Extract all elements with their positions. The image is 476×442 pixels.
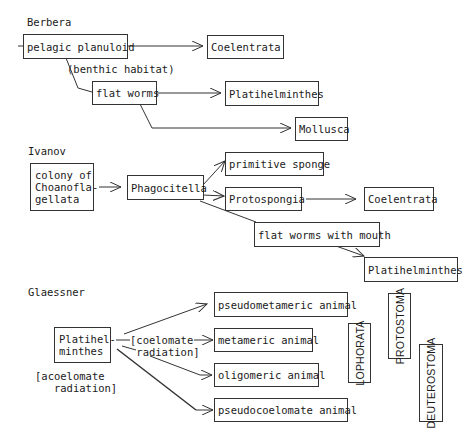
section-title-glaessner: Glaessner bbox=[28, 286, 85, 298]
group-protostoma: PROTOSTOMA bbox=[388, 293, 411, 359]
annotation-benthic-habitat: (benthic habitat) bbox=[67, 63, 174, 75]
node-coelentrata-berbera: Coelentrata bbox=[207, 35, 284, 59]
annotation-acoelomate-radiation: [acoelomate radiation] bbox=[35, 370, 117, 394]
node-oligomeric-animal: oligomeric animal bbox=[214, 363, 319, 387]
node-flat-worms-with-mouth: flat worms with mouth bbox=[254, 222, 380, 247]
group-lophorata-label: LOPHORATA bbox=[354, 320, 366, 385]
group-protostoma-label: PROTOSTOMA bbox=[394, 288, 406, 364]
node-pelagic-planuloid: pelagic planuloid bbox=[23, 34, 128, 59]
node-primitive-sponge: primitive sponge bbox=[225, 152, 324, 176]
annotation-coelomate-radiation: [coelomate radiation] bbox=[130, 334, 200, 358]
node-mollusca: Mollusca bbox=[295, 117, 348, 141]
node-coelentrata-ivanov: Coelentrata bbox=[364, 187, 434, 211]
node-pseudometameric-animal: pseudometameric animal bbox=[214, 292, 348, 317]
node-protospongia: Protospongia bbox=[225, 187, 302, 211]
node-phagocitella: Phagocitella bbox=[127, 175, 204, 200]
node-metameric-animal: metameric animal bbox=[214, 328, 313, 352]
node-platihelminthes-berbera: Platihelminthes bbox=[225, 81, 319, 106]
group-deuterostoma-label: DEUTEROSTOMA bbox=[425, 338, 437, 429]
section-title-berbera: Berbera bbox=[27, 16, 71, 28]
section-title-ivanov: Ivanov bbox=[28, 145, 66, 157]
group-lophorata: LOPHORATA bbox=[348, 323, 371, 383]
node-platihelminthes-ivanov: Platihelminthes bbox=[364, 257, 458, 282]
node-colony-choanoflagellata: colony of Choanofla- gellata bbox=[30, 163, 94, 211]
node-flat-worms: flat worms bbox=[92, 81, 157, 105]
node-platihelminthes-glaessner: Platihel- minthes bbox=[54, 327, 111, 363]
node-pseudocoelomate-animal: pseudocoelomate animal bbox=[214, 398, 348, 422]
group-deuterostoma: DEUTEROSTOMA bbox=[419, 344, 443, 422]
